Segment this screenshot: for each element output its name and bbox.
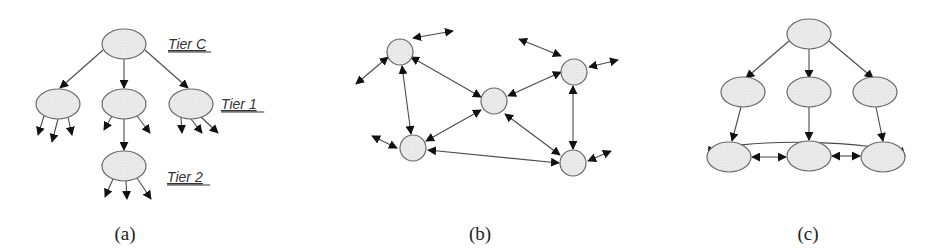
edge-bidirectional	[588, 151, 611, 161]
node-b0	[387, 39, 413, 65]
edge-bidirectional	[428, 150, 559, 163]
edge-bidirectional	[519, 39, 561, 56]
node-b3	[400, 135, 426, 161]
panel-c-hybrid-topology: (c)	[707, 19, 905, 245]
node-c4	[707, 142, 751, 172]
panel-a-hierarchical-tree: Tier CTier 1Tier 2(a)	[36, 29, 264, 245]
node-c6	[861, 142, 905, 172]
node-b2	[561, 59, 587, 85]
node-a4	[102, 151, 146, 181]
edge-directed	[876, 107, 883, 141]
panel-caption: (b)	[469, 223, 491, 245]
node-a3	[169, 89, 213, 119]
edge-directed	[68, 117, 72, 135]
edge-directed	[60, 50, 103, 88]
edge-directed	[104, 116, 112, 130]
topology-figure: Tier CTier 1Tier 2(a) (b) (c)	[0, 0, 931, 252]
node-a1	[36, 89, 80, 119]
tier-label: Tier 1	[221, 96, 257, 112]
panel-caption: (a)	[114, 223, 135, 245]
node-c2	[787, 77, 831, 107]
node-c1	[721, 77, 765, 107]
node-c5	[787, 141, 831, 171]
panel-b-peer-mesh: (b)	[356, 31, 618, 245]
edge-directed	[38, 116, 44, 135]
node-c0	[787, 19, 831, 49]
panel-caption: (c)	[797, 223, 818, 245]
edge-directed	[52, 119, 58, 142]
edge-bidirectional	[411, 57, 481, 97]
node-c3	[853, 77, 897, 107]
edge-directed	[191, 119, 202, 133]
edge-directed	[732, 107, 741, 141]
node-a2	[102, 89, 146, 119]
edge-directed	[181, 117, 182, 133]
edge-bidirectional	[589, 60, 618, 67]
tier-label: Tier 2	[167, 169, 203, 185]
edge-bidirectional	[505, 114, 560, 155]
edge-bidirectional	[356, 57, 388, 84]
edge-bidirectional	[372, 136, 397, 148]
node-b1	[481, 88, 507, 114]
edge-directed	[126, 181, 127, 199]
edge-directed	[145, 50, 188, 88]
edge-directed	[201, 117, 218, 133]
edge-bidirectional	[508, 72, 561, 96]
edge-directed	[829, 41, 873, 78]
edge-directed	[746, 41, 789, 78]
edge-bidirectional	[426, 110, 481, 141]
edge-directed	[137, 178, 151, 199]
edge-directed	[137, 116, 150, 133]
node-a0	[102, 29, 146, 59]
edge-bidirectional	[413, 31, 453, 38]
edge-bidirectional	[402, 66, 411, 134]
edge-directed	[105, 179, 113, 197]
node-b4	[560, 150, 586, 176]
tier-label: Tier C	[168, 36, 207, 52]
